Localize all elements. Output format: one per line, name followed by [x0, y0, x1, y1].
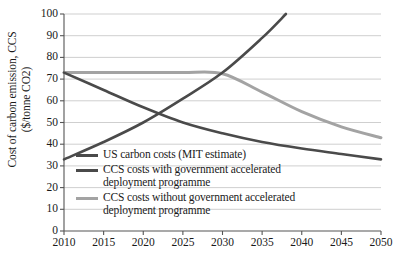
y-tick-label: 80 — [30, 51, 58, 63]
x-tick-label: 2045 — [321, 237, 361, 249]
x-tick-label: 2050 — [361, 237, 397, 249]
data-series-line — [64, 72, 381, 138]
legend-swatch-icon — [76, 197, 98, 200]
y-tick-label: 100 — [30, 8, 58, 20]
legend-item: US carbon costs (MIT estimate) — [76, 148, 376, 162]
y-tick-label: 40 — [30, 138, 58, 150]
x-tick-label: 2010 — [44, 237, 84, 249]
x-tick-label: 2040 — [282, 237, 322, 249]
y-tick-label: 20 — [30, 182, 58, 194]
chart-legend: US carbon costs (MIT estimate) CCS costs… — [76, 148, 376, 219]
legend-label: CCS costs without government accelerated… — [103, 191, 295, 218]
legend-label: CCS costs with government accelerated de… — [103, 163, 281, 190]
y-tick-label: 10 — [30, 203, 58, 215]
legend-item: CCS costs without government accelerated… — [76, 191, 376, 218]
y-tick-label: 60 — [30, 95, 58, 107]
y-tick-label: 30 — [30, 160, 58, 172]
legend-swatch-icon — [76, 154, 98, 157]
x-tick-label: 2020 — [123, 237, 163, 249]
legend-item: CCS costs with government accelerated de… — [76, 163, 376, 190]
x-tick-label: 2015 — [84, 237, 124, 249]
legend-swatch-icon — [76, 169, 98, 172]
y-tick-label: 90 — [30, 30, 58, 42]
y-tick-label: 0 — [30, 225, 58, 237]
y-axis-title: Cost of carbon emission, CCS ($/tonne CO… — [6, 0, 33, 215]
x-tick-label: 2030 — [203, 237, 243, 249]
data-series-line — [64, 73, 381, 160]
y-tick-label: 50 — [30, 117, 58, 129]
x-tick-label: 2025 — [163, 237, 203, 249]
legend-label: US carbon costs (MIT estimate) — [103, 148, 246, 162]
y-tick-label: 70 — [30, 73, 58, 85]
x-tick-label: 2035 — [242, 237, 282, 249]
